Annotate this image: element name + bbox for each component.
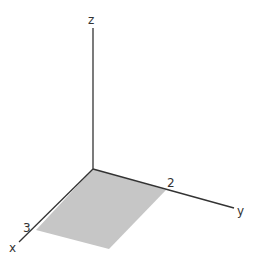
3d-axes-diagram: z y x 2 3 (0, 0, 258, 266)
x-tick-label: 3 (23, 221, 31, 235)
z-axis-label: z (88, 13, 94, 27)
shaded-region (36, 169, 166, 249)
y-tick-label: 2 (167, 176, 175, 190)
y-axis-label: y (237, 204, 244, 218)
x-axis-label: x (9, 241, 16, 255)
